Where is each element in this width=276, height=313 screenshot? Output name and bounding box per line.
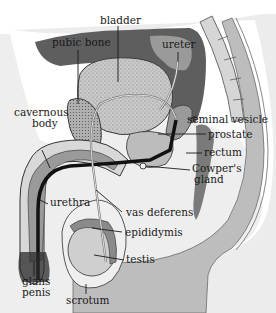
label-glans-penis-2: penis xyxy=(22,286,50,298)
label-prostate: prostate xyxy=(208,128,252,140)
label-bladder: bladder xyxy=(100,14,142,26)
label-seminal-vesicle: seminal vesicle xyxy=(187,113,268,125)
label-rectum: rectum xyxy=(204,146,242,158)
cowpers-gland xyxy=(140,163,146,169)
label-cavernous-body-2: body xyxy=(32,117,58,129)
label-vas-deferens: vas deferens xyxy=(125,206,193,218)
label-testis: testis xyxy=(126,253,155,265)
label-epididymis: epididymis xyxy=(125,226,183,238)
label-ureter: ureter xyxy=(162,38,196,50)
label-urethra: urethra xyxy=(50,196,90,208)
label-pubic-bone: pubic bone xyxy=(52,36,111,48)
label-scrotum: scrotum xyxy=(66,294,110,306)
label-cowpers-gland-2: gland xyxy=(194,173,224,185)
anatomy-diagram: bladder pubic bone ureter cavernous body… xyxy=(0,0,276,313)
